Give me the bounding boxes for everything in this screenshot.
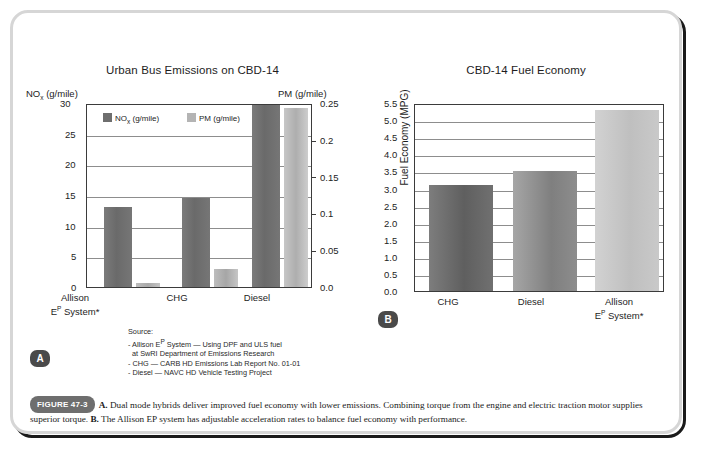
y2tick-0-2: 0.2: [320, 135, 333, 146]
chart-fuel-economy: CBD-14 Fuel Economy Fuel Economy (MPG) 5…: [366, 62, 696, 327]
chart-fuel-economy-y-axis-label: Fuel Economy (MPG): [399, 78, 410, 198]
chart-fuel-economy-title: CBD-14 Fuel Economy: [366, 64, 686, 76]
ytick-15: 15: [65, 190, 76, 201]
ytick-20: 20: [65, 159, 76, 170]
bar-fe-allison: [595, 110, 659, 291]
legend-swatch-pm: [187, 113, 196, 122]
source-note: Source:- Allison EP System — Using DPF a…: [128, 327, 300, 377]
fe-ytick-1-5: 1.5: [384, 235, 397, 246]
fe-ytick-0-5: 0.5: [384, 269, 397, 280]
xlabel-diesel: Diesel: [232, 292, 282, 303]
source-line-1: - Allison EP System — Using DPF and ULS …: [128, 340, 282, 349]
panel-badge-a: A: [30, 350, 50, 367]
bar-nox-diesel: [252, 104, 280, 287]
fe-ytick-0-0: 0.0: [384, 286, 397, 297]
legend-item-nox: NOx (g/mile): [103, 113, 159, 125]
fe-ytick-5-0: 5.0: [384, 115, 397, 126]
fe-xlabel-allison: Allison EP System*: [584, 296, 654, 321]
y2tick-0-1: 0.1: [320, 208, 333, 219]
fe-ytick-3-0: 3.0: [384, 184, 397, 195]
ytick-10: 10: [65, 221, 76, 232]
chart-emissions-plot-area: NOx (g/mile) PM (g/mile): [86, 104, 312, 288]
fe-ytick-5-5: 5.5: [384, 98, 397, 109]
fe-xlabel-chg: CHG: [418, 296, 478, 307]
y2tick-0-15: 0.15: [320, 172, 339, 183]
bar-fe-chg: [429, 185, 493, 291]
y2tick-0-0: 0.0: [320, 282, 333, 293]
legend-swatch-nox: [103, 113, 112, 122]
chart-emissions: Urban Bus Emissions on CBD-14 NOx (g/mil…: [20, 62, 365, 327]
chart-fuel-economy-plot-area: [414, 104, 664, 292]
bar-pm-chg: [214, 269, 238, 287]
caption-b-marker: B.: [90, 414, 98, 424]
bar-pm-diesel: [284, 108, 308, 287]
fe-ytick-2-5: 2.5: [384, 201, 397, 212]
figure-caption: FIGURE 47-3A. Dual mode hybrids deliver …: [30, 396, 670, 426]
panel-badge-b: B: [378, 311, 398, 328]
source-line-3: - CHG — CARB HD Emissions Lab Report No.…: [128, 359, 300, 368]
fe-ytick-4-0: 4.0: [384, 149, 397, 160]
chart-emissions-title: Urban Bus Emissions on CBD-14: [20, 64, 365, 76]
fe-ytick-1-0: 1.0: [384, 252, 397, 263]
fe-xlabel-diesel: Diesel: [501, 296, 561, 307]
legend-item-pm: PM (g/mile): [187, 113, 240, 123]
bar-fe-diesel: [513, 171, 577, 291]
bar-nox-allison: [104, 207, 132, 287]
y2tickmark-0-05: [312, 251, 316, 252]
source-line-4: - Diesel — NAVC HD Vehicle Testing Proje…: [128, 368, 272, 377]
figure-number-badge: FIGURE 47-3: [30, 396, 95, 413]
ytick-25: 25: [65, 129, 76, 140]
ytick-5: 5: [71, 251, 76, 262]
y2tickmark-0-15: [312, 177, 316, 178]
source-line-2: at SwRI Department of Emissions Research: [128, 349, 274, 358]
xlabel-chg: CHG: [152, 292, 202, 303]
source-heading: Source:: [128, 327, 300, 336]
y2tickmark-0-1: [312, 214, 316, 215]
bar-nox-chg: [182, 198, 210, 288]
figure-canvas: Urban Bus Emissions on CBD-14 NOx (g/mil…: [0, 0, 718, 454]
fe-ytick-2-0: 2.0: [384, 218, 397, 229]
fe-ytick-3-5: 3.5: [384, 166, 397, 177]
y2tick-0-25: 0.25: [320, 98, 339, 109]
ytick-30: 30: [60, 98, 71, 109]
y2tickmark-0-2: [312, 141, 316, 142]
xlabel-allison: Allison EP System*: [40, 292, 110, 317]
caption-b-text: The Allison EP system has adjustable acc…: [99, 414, 467, 424]
fe-ytick-4-5: 4.5: [384, 132, 397, 143]
y2tick-0-05: 0.05: [320, 245, 339, 256]
caption-a-marker: A.: [99, 400, 108, 410]
bar-pm-allison: [136, 283, 160, 287]
